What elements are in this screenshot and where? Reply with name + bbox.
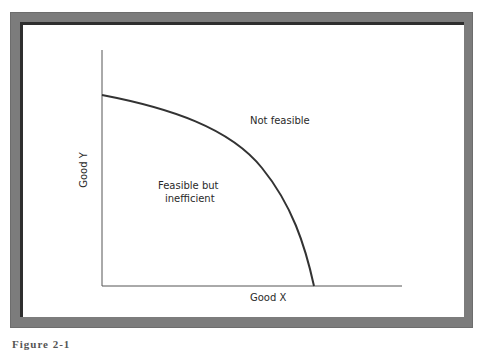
y-axis-label: Good Y xyxy=(78,152,90,188)
not-feasible-label: Not feasible xyxy=(250,115,310,127)
feasible-label-line1: Feasible but xyxy=(158,180,219,192)
feasible-label-line2: inefficient xyxy=(165,193,215,205)
x-axis-label: Good X xyxy=(250,292,286,304)
figure-caption: Figure 2-1 xyxy=(12,338,70,350)
